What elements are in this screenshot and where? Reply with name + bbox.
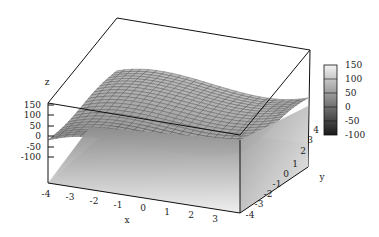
svg-text:0: 0 bbox=[345, 102, 351, 112]
svg-text:2: 2 bbox=[300, 146, 306, 156]
y-axis-label: y bbox=[318, 172, 325, 182]
svg-text:3: 3 bbox=[307, 135, 313, 145]
svg-text:-4: -4 bbox=[42, 189, 51, 199]
svg-text:0: 0 bbox=[140, 203, 146, 213]
colorbar: 150 100 50 0 -50 -100 bbox=[324, 60, 365, 140]
svg-text:150: 150 bbox=[345, 60, 362, 70]
surface-plot: 150 100 50 0 -50 -100 z -4 -3 -2 -1 0 1 … bbox=[0, 0, 379, 237]
svg-text:-3: -3 bbox=[66, 192, 75, 202]
z-axis-label: z bbox=[45, 77, 50, 87]
svg-text:50: 50 bbox=[345, 88, 357, 98]
svg-text:-50: -50 bbox=[345, 116, 360, 126]
svg-text:150: 150 bbox=[24, 100, 41, 110]
svg-text:1: 1 bbox=[164, 207, 170, 217]
svg-text:-3: -3 bbox=[255, 199, 264, 209]
svg-text:0: 0 bbox=[283, 169, 289, 179]
svg-text:3: 3 bbox=[212, 214, 218, 224]
svg-text:-2: -2 bbox=[264, 189, 273, 199]
svg-text:-1: -1 bbox=[114, 200, 123, 210]
svg-text:1: 1 bbox=[292, 159, 298, 169]
front-face bbox=[48, 127, 240, 213]
z-axis-ticks bbox=[48, 105, 54, 157]
svg-text:4: 4 bbox=[313, 125, 319, 135]
svg-text:-1: -1 bbox=[273, 179, 282, 189]
svg-text:50: 50 bbox=[30, 121, 42, 131]
svg-text:-2: -2 bbox=[90, 196, 99, 206]
svg-text:2: 2 bbox=[188, 210, 194, 220]
svg-text:-100: -100 bbox=[345, 130, 365, 140]
svg-text:100: 100 bbox=[24, 110, 41, 120]
svg-text:-4: -4 bbox=[246, 210, 255, 220]
svg-text:0: 0 bbox=[35, 131, 41, 141]
x-axis-label: x bbox=[124, 215, 129, 225]
svg-text:-100: -100 bbox=[21, 152, 41, 162]
svg-text:-50: -50 bbox=[27, 142, 42, 152]
z-axis-tick-labels: 150 100 50 0 -50 -100 bbox=[21, 100, 42, 162]
svg-text:100: 100 bbox=[345, 74, 362, 84]
